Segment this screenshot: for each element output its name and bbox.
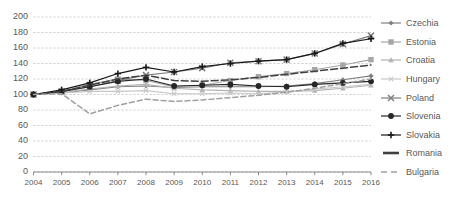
legend-marker-icon — [378, 52, 404, 68]
data-point-marker — [227, 82, 233, 88]
legend-item-label: Bulgaria — [404, 167, 439, 177]
data-point-marker — [143, 76, 149, 82]
legend-item-estonia[interactable]: Estonia — [378, 33, 466, 52]
legend-marker-icon — [378, 108, 404, 124]
legend-item-romania[interactable]: Romania — [378, 144, 466, 163]
y-axis-tick-label: 160 — [0, 43, 28, 52]
legend-item-hungary[interactable]: Hungary — [378, 70, 466, 89]
legend-marker-icon — [378, 164, 404, 180]
y-axis-tick-label: 140 — [0, 59, 28, 68]
y-axis-tick-label: 200 — [0, 12, 28, 21]
data-point-marker — [388, 39, 393, 44]
data-point-marker — [256, 74, 261, 79]
x-axis-ticks — [34, 172, 372, 175]
chart-legend: CzechiaEstoniaCroatiaHungaryPolandSloven… — [378, 14, 466, 181]
data-point-marker — [340, 62, 345, 67]
legend-item-label: Croatia — [404, 55, 435, 65]
legend-marker-icon — [378, 34, 404, 50]
legend-item-slovakia[interactable]: Slovakia — [378, 126, 466, 145]
y-axis-tick-label: 20 — [0, 152, 28, 161]
data-point-marker — [368, 57, 373, 62]
data-point-marker — [284, 84, 290, 90]
legend-marker-icon — [378, 90, 404, 106]
legend-item-slovenia[interactable]: Slovenia — [378, 107, 466, 126]
legend-item-poland[interactable]: Poland — [378, 88, 466, 107]
legend-item-label: Poland — [404, 93, 434, 103]
data-point-marker — [388, 132, 394, 138]
data-point-marker — [143, 64, 149, 70]
legend-item-label: Slovakia — [404, 130, 440, 140]
legend-item-label: Estonia — [404, 37, 436, 47]
legend-item-label: Romania — [404, 148, 442, 158]
y-axis-tick-label: 80 — [0, 105, 28, 114]
y-axis-tick-label: 60 — [0, 121, 28, 130]
legend-marker-icon — [378, 71, 404, 87]
data-point-marker — [256, 83, 262, 89]
data-point-marker — [312, 82, 318, 88]
y-axis-tick-label: 120 — [0, 74, 28, 83]
legend-item-label: Czechia — [404, 18, 439, 28]
data-point-marker — [171, 83, 177, 89]
data-point-marker — [388, 21, 393, 26]
legend-marker-icon — [378, 145, 404, 161]
chart-container: 020406080100120140160180200 200420052006… — [0, 0, 466, 203]
legend-item-bulgaria[interactable]: Bulgaria — [378, 163, 466, 182]
legend-item-label: Slovenia — [404, 111, 441, 121]
legend-item-czechia[interactable]: Czechia — [378, 14, 466, 33]
data-point-marker — [115, 70, 121, 76]
data-series-layer — [30, 33, 374, 114]
legend-marker-icon — [378, 127, 404, 143]
legend-item-label: Hungary — [404, 74, 440, 84]
y-axis-tick-label: 180 — [0, 28, 28, 37]
data-point-marker — [388, 113, 394, 119]
y-axis-tick-label: 40 — [0, 136, 28, 145]
legend-item-croatia[interactable]: Croatia — [378, 51, 466, 70]
data-point-marker — [199, 82, 205, 88]
data-point-marker — [284, 71, 289, 76]
y-axis-tick-label: 100 — [0, 90, 28, 99]
y-axis-tick-label: 0 — [0, 167, 28, 176]
data-point-marker — [368, 73, 373, 78]
legend-marker-icon — [378, 15, 404, 31]
